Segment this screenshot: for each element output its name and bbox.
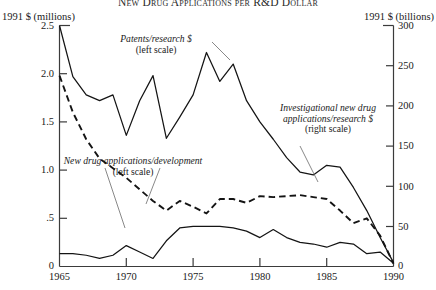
x-tick-1965: 1965 [40,272,80,283]
annotation-patents-research: Patents/research $ (left scale) [76,34,236,55]
x-tick-1990: 1990 [374,272,414,283]
right-tick-250: 250 [398,61,434,72]
right-axis-ticks [386,66,394,227]
annotation-patents-line2: (left scale) [136,44,177,55]
leader-inda [300,146,318,182]
left-tick-0-5: .5 [16,213,54,224]
left-tick-2-0: 2.0 [16,69,54,80]
right-tick-100: 100 [398,182,434,193]
right-tick-200: 200 [398,101,434,112]
series-layer [60,26,394,264]
left-axis-ticks [60,74,68,219]
right-tick-50: 50 [398,222,434,233]
annotation-patents-line1: Patents/research $ [120,33,192,44]
chart-container: New Drug Applications per R&D Dollar 199… [0,0,436,290]
x-tick-1985: 1985 [307,272,347,283]
x-axis-ticks [126,258,326,267]
annotation-new-drug-applications: New drug applications/development (left … [36,156,230,177]
annotation-nda-line2: (left scale) [113,166,154,177]
annotation-inda-line2: applications/research $ [283,113,373,124]
right-tick-300: 300 [398,21,434,32]
annotation-investigational-new-drug: Investigational new drug applications/re… [256,103,400,135]
axis-frame [60,26,394,267]
left-tick-2-5: 2.5 [16,21,54,32]
annotation-inda-line3: (right scale) [305,123,351,134]
left-tick-0: 0 [16,261,54,272]
right-tick-150: 150 [398,141,434,152]
x-tick-1980: 1980 [240,272,280,283]
x-tick-1970: 1970 [106,272,146,283]
annotation-nda-line1: New drug applications/development [64,155,203,166]
x-tick-1975: 1975 [173,272,213,283]
left-tick-1-5: 1.5 [16,117,54,128]
series-investigational-new-drug-line [60,226,394,263]
right-tick-0: 0 [398,261,434,272]
annotation-inda-line1: Investigational new drug [280,102,376,113]
